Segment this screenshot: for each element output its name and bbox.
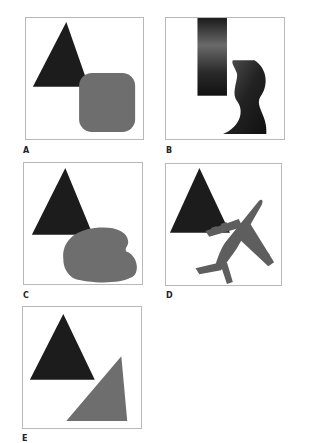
panel-b-figure [166, 18, 284, 139]
panel-a-figure [26, 18, 143, 139]
label-c: C [23, 291, 29, 300]
panel-e-figure [23, 307, 141, 428]
label-e: E [22, 434, 27, 443]
panel-d [165, 163, 282, 286]
panel-a [25, 17, 144, 140]
panel-c [23, 162, 143, 285]
dark-triangle [33, 22, 89, 87]
gray-rounded-square [79, 73, 135, 132]
label-b: B [166, 146, 172, 155]
wavy-gradient-bar [223, 60, 266, 134]
panel-c-figure [24, 163, 142, 284]
label-d: D [166, 291, 173, 300]
dark-triangle [170, 168, 230, 233]
panel-d-figure [166, 164, 281, 285]
dark-triangle [30, 314, 95, 380]
dark-triangle [32, 168, 93, 235]
panel-e [22, 306, 142, 429]
gray-bean-blob [63, 227, 137, 282]
label-a: A [23, 146, 29, 155]
vertical-gradient-bar [197, 18, 227, 96]
panel-b [165, 17, 285, 140]
